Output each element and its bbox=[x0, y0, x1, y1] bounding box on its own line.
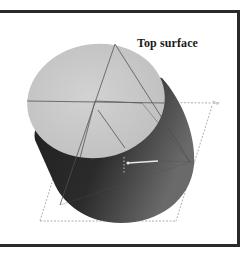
axis-label: Top bbox=[212, 100, 219, 105]
top-surface-label: Top surface bbox=[137, 36, 198, 51]
cylinder-diagram bbox=[0, 0, 244, 255]
